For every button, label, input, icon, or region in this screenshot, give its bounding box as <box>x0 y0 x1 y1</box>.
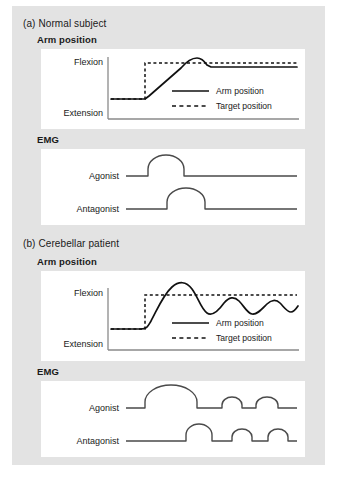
legend-arm-position-label: Arm position <box>216 318 264 328</box>
panel-a-emg-svg: Agonist Antagonist <box>41 149 305 225</box>
panel-a-agonist-trace <box>126 155 297 176</box>
panel-b-antagonist-trace <box>126 424 297 441</box>
legend-target-position-label: Target position <box>216 101 272 111</box>
panel-b-target-position-trace <box>111 295 297 329</box>
panel-b-arm-position-plot: Flexion Extension Arm position Target po… <box>41 271 305 361</box>
panel-a-arm-position-plot: Flexion Extension Arm position Target po… <box>41 49 305 129</box>
panel-b-arm-position-svg: Flexion Extension Arm position Target po… <box>41 271 305 361</box>
panel-a-flexion-label: Flexion <box>74 57 103 67</box>
panel-a-emg-plot: Agonist Antagonist <box>41 149 305 225</box>
panel-b-arm-position-heading: Arm position <box>37 256 97 267</box>
panel-a-target-position-trace <box>111 63 297 99</box>
panel-a-arm-position-trace <box>111 58 297 99</box>
panel-b-arm-position-trace <box>111 283 298 329</box>
panel-a-arm-position-heading: Arm position <box>37 34 97 45</box>
panel-b-agonist-label: Agonist <box>89 403 120 413</box>
panel-a-antagonist-label: Antagonist <box>76 204 119 214</box>
panel-a-agonist-label: Agonist <box>89 171 120 181</box>
panel-b-emg-plot: Agonist Antagonist <box>41 381 305 457</box>
panel-b-antagonist-label: Antagonist <box>76 436 119 446</box>
panel-b-emg-heading: EMG <box>37 366 59 377</box>
panel-b-flexion-label: Flexion <box>74 288 103 298</box>
legend-arm-position-label: Arm position <box>216 86 264 96</box>
panel-a-extension-label: Extension <box>63 108 103 118</box>
panel-b-caption: (b) Cerebellar patient <box>23 238 119 249</box>
panel-a-antagonist-trace <box>126 188 297 209</box>
panel-a-arm-position-svg: Flexion Extension Arm position Target po… <box>41 49 305 129</box>
panel-b-extension-label: Extension <box>63 339 103 349</box>
panel-b-legend: Arm position Target position <box>172 318 272 343</box>
panel-b-agonist-trace <box>126 385 297 408</box>
figure-container: (a) Normal subject Arm position Flexion … <box>12 6 325 465</box>
panel-a-emg-heading: EMG <box>37 134 59 145</box>
panel-b-emg-svg: Agonist Antagonist <box>41 381 305 457</box>
panel-a-caption: (a) Normal subject <box>23 18 107 29</box>
legend-target-position-label: Target position <box>216 333 272 343</box>
panel-a-legend: Arm position Target position <box>172 86 272 111</box>
